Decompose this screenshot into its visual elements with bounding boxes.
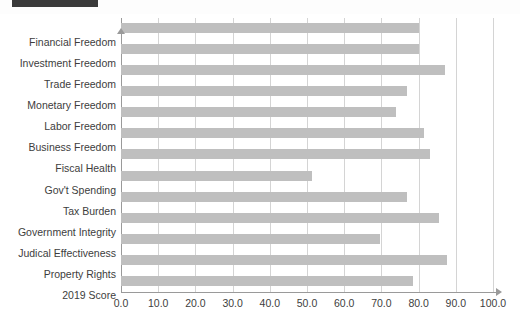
bar [121,213,439,223]
y-axis-label: Fiscal Health [55,158,116,179]
y-axis-label: Tax Burden [63,201,116,222]
y-axis-label: Gov't Spending [45,180,116,201]
x-tick-label: 100.0 [480,297,506,309]
x-axis-arrow-icon [496,288,502,296]
bar-row [121,60,493,81]
y-axis-label: Trade Freedom [44,74,116,95]
y-axis-label: Business Freedom [28,137,116,158]
bar-row [121,144,493,165]
bar [121,65,445,75]
bar-row [121,39,493,60]
y-axis-label: Monetary Freedom [27,95,116,116]
cropped-title-text [128,0,428,8]
bar-row [121,81,493,102]
x-tick-label: 60.0 [334,297,354,309]
bar [121,255,447,265]
chart-container: Financial FreedomInvestment FreedomTrade… [0,14,520,317]
x-tick-label: 0.0 [114,297,129,309]
bar-row [121,250,493,271]
bar [121,234,380,244]
bar-row [121,166,493,187]
y-axis-label: Property Rights [44,264,116,285]
y-axis-category-labels: Financial FreedomInvestment FreedomTrade… [0,32,116,306]
y-axis-label: Financial Freedom [29,32,116,53]
bar [121,276,413,286]
x-tick-label: 80.0 [408,297,428,309]
plot-area [121,18,493,292]
bar [121,44,419,54]
x-tick-label: 30.0 [222,297,242,309]
x-tick-label: 50.0 [297,297,317,309]
bar [121,128,424,138]
y-axis-label: Judical Effectiveness [18,243,116,264]
bar [121,86,407,96]
gridline-100.0 [493,18,494,292]
bar-row [121,229,493,250]
bar-row [121,123,493,144]
bar [121,149,430,159]
y-axis-label: Investment Freedom [20,53,116,74]
x-tick-label: 90.0 [446,297,466,309]
x-tick-label: 20.0 [185,297,205,309]
x-tick-label: 10.0 [148,297,168,309]
cropped-window-chrome [0,0,520,14]
x-axis-tick-labels: 0.010.020.030.040.050.060.070.080.090.01… [0,297,520,313]
bar [121,23,419,33]
y-axis-arrow-icon [117,28,125,34]
y-axis-label: Labor Freedom [44,116,116,137]
y-axis-label: Government Integrity [18,222,116,243]
bar-row [121,208,493,229]
x-tick-label: 70.0 [371,297,391,309]
x-axis-line [121,292,499,293]
x-tick-label: 40.0 [260,297,280,309]
cropped-title-bar [12,0,98,7]
bar [121,171,312,181]
bar-row [121,18,493,39]
bar [121,192,407,202]
bar-row [121,271,493,292]
bar-row [121,102,493,123]
bar-row [121,187,493,208]
bar [121,107,396,117]
